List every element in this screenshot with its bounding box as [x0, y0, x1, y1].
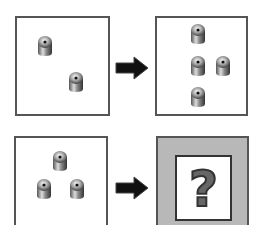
peg-icon — [68, 71, 84, 93]
input-box-row1 — [15, 16, 110, 116]
peg-icon — [52, 150, 68, 172]
peg-icon — [36, 178, 52, 200]
peg-icon — [190, 86, 206, 108]
peg-icon — [190, 23, 206, 45]
question-mark-icon: ? — [177, 161, 230, 217]
peg-icon — [215, 55, 231, 77]
right-arrow-icon — [114, 176, 150, 200]
peg-icon — [69, 178, 85, 200]
unknown-output-box: ? — [156, 136, 249, 225]
input-box-row2 — [14, 136, 108, 225]
peg-icon — [190, 55, 206, 77]
output-box-row1 — [155, 16, 248, 116]
question-frame: ? — [175, 155, 232, 221]
peg-icon — [37, 35, 53, 57]
right-arrow-icon — [114, 56, 150, 80]
